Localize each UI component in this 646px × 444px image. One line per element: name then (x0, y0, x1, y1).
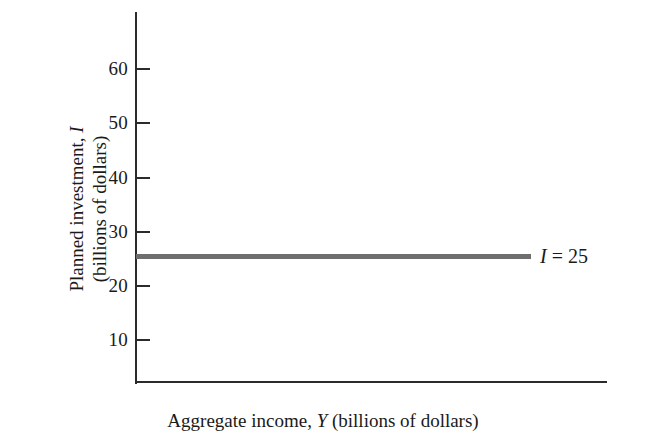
y-axis-title-line2: (billions of dollars) (88, 39, 111, 379)
figure-planned-investment: 60 50 40 30 20 10 I = 25 Planned investm… (0, 0, 646, 444)
y-axis-tick-10 (137, 339, 150, 341)
y-axis-tick-50 (137, 122, 150, 124)
curve-label-value: 25 (568, 245, 588, 267)
curve-label-investment: I = 25 (540, 245, 588, 267)
y-axis-tick-20 (137, 285, 150, 287)
x-axis-title-suffix: (billions of dollars) (327, 410, 478, 431)
y-axis-title-prefix: Planned investment, (66, 133, 87, 292)
x-axis-title-prefix: Aggregate income, (167, 410, 316, 431)
x-axis-line (135, 381, 607, 383)
y-axis-tick-60 (137, 68, 150, 70)
y-axis-tick-40 (137, 177, 150, 179)
curve-label-equals: = (547, 245, 568, 267)
x-axis-title: Aggregate income, Y (billions of dollars… (0, 409, 646, 432)
y-axis-title: Planned investment, I (billions of dolla… (65, 39, 111, 379)
curve-label-symbol: I (540, 245, 547, 267)
planned-investment-line (136, 254, 531, 259)
y-axis-title-line1: Planned investment, I (66, 126, 87, 291)
x-axis-title-symbol: Y (317, 410, 328, 431)
y-axis-title-symbol: I (66, 126, 87, 132)
y-axis-tick-30 (137, 231, 150, 233)
